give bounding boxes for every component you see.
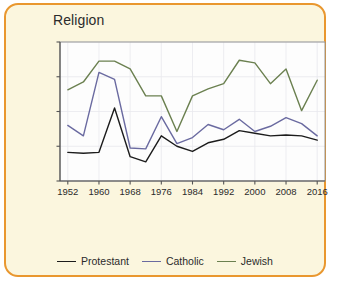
legend-swatch-icon <box>142 261 161 262</box>
legend-item-label: Protestant <box>81 255 129 267</box>
x-tick-label: 2008 <box>275 186 296 197</box>
x-tick-label: 1984 <box>182 186 203 197</box>
legend-item-jewish[interactable]: Jewish <box>217 255 273 267</box>
legend-item-protestant[interactable]: Protestant <box>57 255 129 267</box>
plot-area: Percent 20406080100195219601968197619841… <box>54 33 329 211</box>
line-chart-svg: 2040608010019521960196819761984199220002… <box>54 33 329 211</box>
x-tick-label: 1992 <box>213 186 234 197</box>
legend-swatch-icon <box>57 261 76 262</box>
legend-item-catholic[interactable]: Catholic <box>142 255 204 267</box>
x-tick-label: 1952 <box>57 186 78 197</box>
chart-card: Religion Percent 20406080100195219601968… <box>4 3 326 277</box>
chart-legend: ProtestantCatholicJewish <box>6 255 324 267</box>
legend-item-label: Jewish <box>241 255 273 267</box>
legend-item-label: Catholic <box>166 255 204 267</box>
x-tick-label: 2000 <box>244 186 265 197</box>
page-title: Religion <box>53 12 104 28</box>
x-tick-label: 1968 <box>120 186 141 197</box>
legend-swatch-icon <box>217 261 236 262</box>
x-tick-label: 1976 <box>151 186 172 197</box>
x-tick-label: 1960 <box>88 186 109 197</box>
x-tick-label: 2016 <box>307 186 328 197</box>
